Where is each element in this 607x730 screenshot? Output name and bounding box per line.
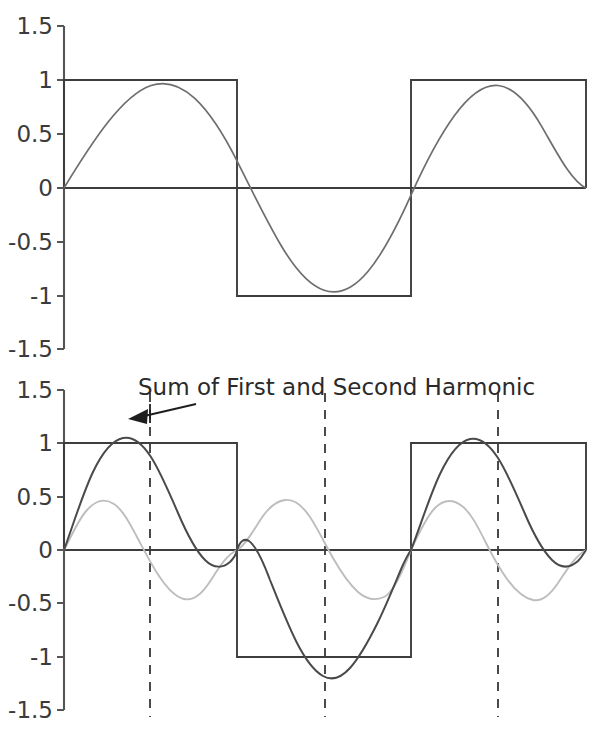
y-tick-label-top-6: -1.5 — [8, 336, 53, 362]
chart-panel-top: 1.5 1 0.5 0 -0.5 -1 -1.5 — [0, 0, 607, 365]
y-tick-label-top-0: 1.5 — [16, 13, 53, 39]
y-tick-label-bottom-6: -1.5 — [8, 697, 53, 723]
chart-panel-bottom: 1.5 1 0.5 0 -0.5 -1 -1.5 — [0, 365, 607, 730]
sum-harmonics-curve-bottom — [64, 438, 586, 679]
y-tick-label-top-3: 0 — [38, 175, 53, 201]
y-tick-label-top-1: 1 — [38, 67, 53, 93]
bottom-chart-svg: 1.5 1 0.5 0 -0.5 -1 -1.5 — [0, 365, 607, 730]
y-tick-label-bottom-4: -0.5 — [8, 590, 53, 616]
y-tick-label-bottom-3: 0 — [38, 537, 53, 563]
y-tick-label-top-2: 0.5 — [16, 121, 53, 147]
annotation-arrow — [128, 404, 196, 424]
y-tick-label-bottom-1: 1 — [38, 430, 53, 456]
annotation-label: Sum of First and Second Harmonic — [138, 374, 535, 400]
y-tick-label-bottom-2: 0.5 — [16, 484, 53, 510]
y-tick-label-top-4: -0.5 — [8, 229, 53, 255]
y-tick-label-bottom-0: 1.5 — [16, 377, 53, 403]
y-tick-label-bottom-5: -1 — [30, 644, 53, 670]
top-chart-svg: 1.5 1 0.5 0 -0.5 -1 -1.5 — [0, 0, 607, 365]
y-tick-label-top-5: -1 — [30, 283, 53, 309]
harmonic-figure: 1.5 1 0.5 0 -0.5 -1 -1.5 — [0, 0, 607, 730]
